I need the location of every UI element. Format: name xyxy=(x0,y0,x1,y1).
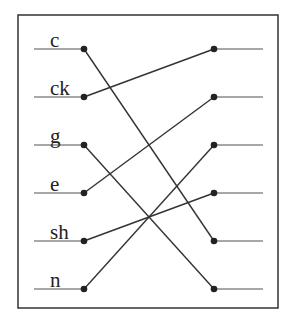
right-dot[interactable] xyxy=(211,286,218,293)
right-dot[interactable] xyxy=(211,94,218,101)
left-label-sh: sh xyxy=(50,220,69,244)
left-dot[interactable] xyxy=(81,190,88,197)
connections xyxy=(84,49,214,289)
right-dot[interactable] xyxy=(211,142,218,149)
left-dot[interactable] xyxy=(81,286,88,293)
right-dot[interactable] xyxy=(211,46,218,53)
connector-line xyxy=(84,49,214,97)
right-dot[interactable] xyxy=(211,238,218,245)
left-column: cckgeshn xyxy=(34,28,84,292)
right-dot[interactable] xyxy=(211,190,218,197)
left-label-g: g xyxy=(50,124,61,148)
left-dot[interactable] xyxy=(81,94,88,101)
right-column xyxy=(214,49,263,289)
matching-diagram: cckgeshn xyxy=(0,0,293,323)
left-dot[interactable] xyxy=(81,142,88,149)
diagram-frame xyxy=(18,15,278,308)
left-label-n: n xyxy=(50,268,61,292)
left-dot[interactable] xyxy=(81,46,88,53)
left-label-c: c xyxy=(50,28,59,52)
dots xyxy=(81,46,218,293)
left-dot[interactable] xyxy=(81,238,88,245)
left-label-ck: ck xyxy=(50,76,70,100)
connector-line xyxy=(84,97,214,193)
left-label-e: e xyxy=(50,172,59,196)
